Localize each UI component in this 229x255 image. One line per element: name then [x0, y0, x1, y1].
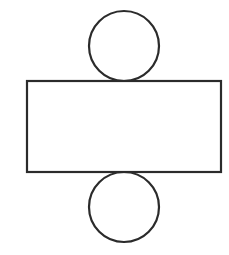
top-circle-base [89, 11, 159, 81]
lateral-surface-rectangle [27, 81, 221, 172]
bottom-circle-base [89, 172, 159, 242]
cylinder-net-diagram [0, 0, 229, 255]
